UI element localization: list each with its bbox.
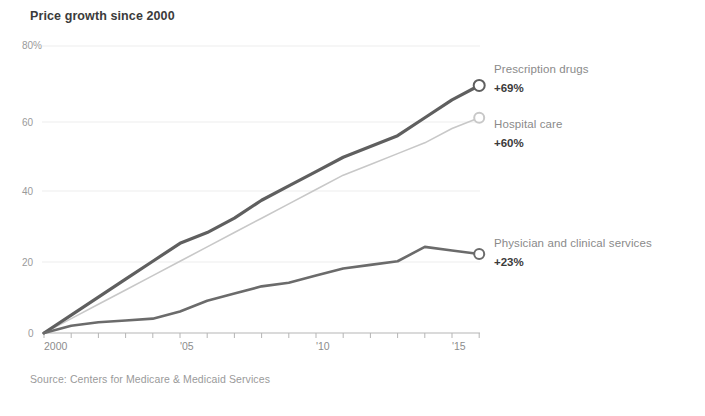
gridlines: [42, 46, 480, 262]
x-axis-labels: 2000 '05 '10 '15: [44, 340, 466, 352]
series-endpoint-physician-clinical: [474, 249, 484, 259]
series-line-hospital-care: [44, 118, 479, 333]
legend-label-physician-clinical: Physician and clinical services: [494, 237, 652, 249]
series-hospital-care: [44, 113, 484, 333]
x-tick-label-05: '05: [180, 340, 194, 352]
y-tick-label-20: 20: [22, 257, 34, 268]
series-line-prescription-drugs: [44, 85, 479, 333]
chart-figure: Price growth since 2000 80% 60 40 20 0: [0, 0, 705, 416]
y-tick-label-80: 80%: [22, 40, 42, 51]
legend-label-hospital-care: Hospital care: [494, 118, 562, 130]
y-axis-labels: 80% 60 40 20 0: [22, 40, 42, 339]
legend-value-physician-clinical: +23%: [494, 256, 524, 268]
y-tick-label-60: 60: [22, 117, 34, 128]
legend-value-hospital-care: +60%: [494, 137, 524, 149]
y-tick-label-0: 0: [28, 328, 34, 339]
y-tick-label-40: 40: [22, 186, 34, 197]
x-tick-label-2000: 2000: [44, 340, 68, 352]
chart-source-note: Source: Centers for Medicare & Medicaid …: [30, 373, 270, 385]
line-chart-plot: 80% 60 40 20 0: [0, 0, 705, 416]
series-prescription-drugs: [44, 80, 485, 333]
x-axis-ticks: [44, 333, 479, 338]
legend-value-prescription-drugs: +69%: [494, 82, 524, 94]
x-tick-label-15: '15: [452, 340, 466, 352]
x-tick-label-10: '10: [316, 340, 330, 352]
legend-label-prescription-drugs: Prescription drugs: [494, 63, 588, 75]
series-endpoint-prescription-drugs: [474, 80, 485, 91]
series-endpoint-hospital-care: [474, 113, 484, 123]
